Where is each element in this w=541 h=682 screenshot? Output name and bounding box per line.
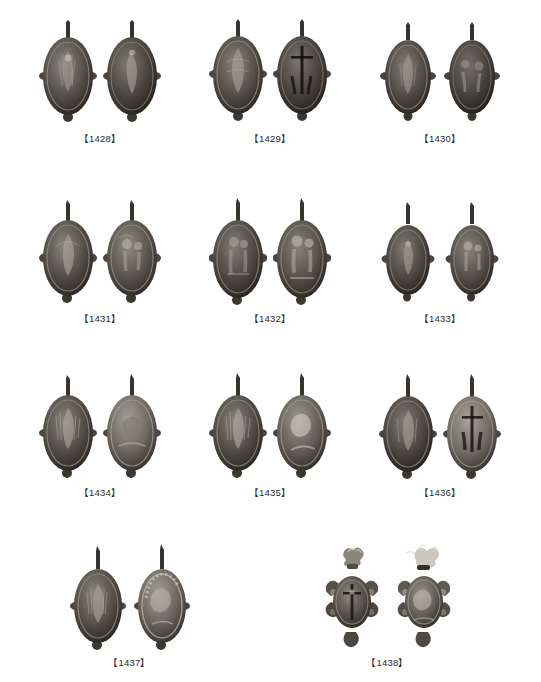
specimen-view-pair [10,188,190,308]
page-footer [0,672,541,682]
specimen-label: 【1429】 [180,133,360,145]
medal-reverse[interactable] [273,16,331,128]
specimen-1434[interactable]: 【1434】 [10,362,190,499]
medal-obverse[interactable] [69,540,127,652]
specimen-view-pair [180,8,360,128]
specimen-label: 【1436】 [350,487,530,499]
medal-obverse[interactable] [209,196,267,308]
specimen-view-pair [300,532,475,652]
specimen-view-pair [350,188,530,308]
medal-reverse[interactable] [391,540,457,652]
medal-reverse[interactable] [273,370,331,482]
medal-obverse[interactable] [39,16,97,128]
specimen-label: 【1428】 [10,133,190,145]
specimen-1438[interactable]: 【1438】 [300,532,475,669]
medal-reverse[interactable] [103,16,161,128]
medal-obverse[interactable] [379,196,437,308]
medal-reverse[interactable] [103,196,161,308]
specimen-label: 【1432】 [180,313,360,325]
specimen-view-pair [350,8,530,128]
medal-obverse[interactable] [209,370,267,482]
medal-obverse[interactable] [209,16,267,128]
specimen-view-pair [10,362,190,482]
medal-reverse[interactable] [443,16,501,128]
specimen-1436[interactable]: 【1436】 [350,362,530,499]
specimen-1437[interactable]: 【1437】 [42,532,217,669]
specimen-1430[interactable]: 【1430】 [350,8,530,145]
specimen-label: 【1438】 [300,657,475,669]
medal-obverse[interactable] [379,370,437,482]
plate-page: 【1428】 [0,0,541,682]
medal-reverse[interactable] [103,370,161,482]
medal-obverse[interactable] [379,16,437,128]
specimen-label: 【1431】 [10,313,190,325]
specimen-1433[interactable]: 【1433】 [350,188,530,325]
specimen-label: 【1434】 [10,487,190,499]
specimen-1428[interactable]: 【1428】 [10,8,190,145]
specimen-1429[interactable]: 【1429】 [180,8,360,145]
medal-obverse[interactable] [39,196,97,308]
medal-obverse[interactable] [39,370,97,482]
specimen-view-pair [180,362,360,482]
specimen-label: 【1433】 [350,313,530,325]
specimen-view-pair [42,532,217,652]
specimen-view-pair [350,362,530,482]
specimen-label: 【1430】 [350,133,530,145]
specimen-view-pair [10,8,190,128]
medal-reverse[interactable] [443,196,501,308]
specimen-label: 【1437】 [42,657,217,669]
specimen-1431[interactable]: 【1431】 [10,188,190,325]
specimen-label: 【1435】 [180,487,360,499]
specimen-1435[interactable]: 【1435】 [180,362,360,499]
specimen-1432[interactable]: 【1432】 [180,188,360,325]
medal-reverse[interactable] [133,540,191,652]
medal-reverse[interactable] [443,370,501,482]
specimen-view-pair [180,188,360,308]
medal-obverse[interactable] [319,540,385,652]
medal-reverse[interactable] [273,196,331,308]
